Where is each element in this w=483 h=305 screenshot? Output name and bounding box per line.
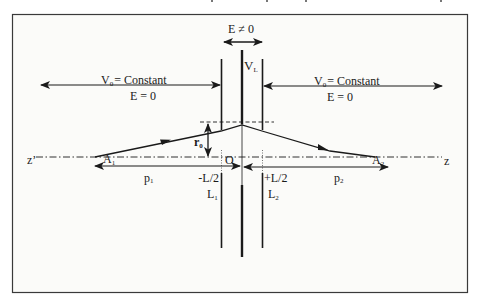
center-field-label: E ≠ 0	[228, 22, 254, 36]
right-region-field: E = 0	[327, 90, 353, 104]
origin-label: O	[225, 153, 234, 167]
figure-frame	[13, 15, 468, 293]
axis-right-label: z	[444, 154, 449, 168]
axis-left-label: z’	[27, 153, 36, 167]
left-electrode-position-label: -L/2	[198, 171, 219, 185]
left-region-field: E = 0	[130, 89, 156, 103]
right-electrode-position-label: +L/2	[264, 171, 287, 185]
einzel-lens-diagram: E ≠ 0 VL V0= Constant E = 0 V0= Constant…	[0, 0, 483, 305]
cropped-text-fragments	[211, 0, 442, 2]
